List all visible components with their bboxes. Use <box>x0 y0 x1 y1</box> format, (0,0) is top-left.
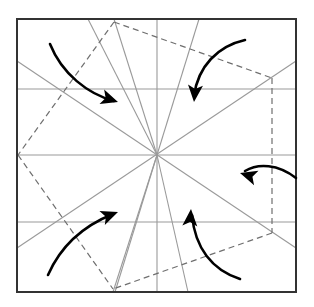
arrows-group <box>48 40 296 279</box>
arrow-bottom-left-clockwise-shaft <box>48 214 113 275</box>
crease-lower-left-steep <box>115 155 157 292</box>
dashed-edge-2 <box>113 233 272 289</box>
arrow-top-left-clockwise-head <box>100 90 121 110</box>
dashed-edge-0 <box>114 22 272 78</box>
crease-to-top-vertex <box>114 19 157 155</box>
crease-upper-left-steep <box>88 19 157 155</box>
arrow-bottom-right-clockwise-head <box>182 208 198 226</box>
arrow-top-left-clockwise-shaft <box>50 44 114 101</box>
crease-lower-right-steep <box>157 155 188 292</box>
diagram-canvas <box>0 0 314 307</box>
crease-pattern-figure <box>0 0 314 307</box>
